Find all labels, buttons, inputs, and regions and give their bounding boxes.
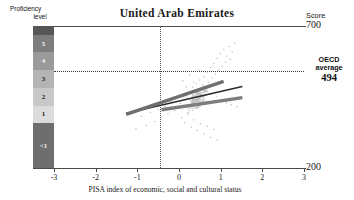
proficiency-band-label: 5 xyxy=(42,40,46,48)
proficiency-caption-line1: Proficiency xyxy=(10,5,66,13)
x-tick-label--1: -1 xyxy=(126,173,148,182)
chart-root: United Arab Emirates Proficiency level 5… xyxy=(0,0,354,200)
proficiency-band-label: 2 xyxy=(42,93,46,101)
x-tick--1 xyxy=(137,168,138,172)
x-tick-label-0: 0 xyxy=(168,173,190,182)
proficiency-band-lt1: <1 xyxy=(33,123,54,168)
proficiency-band-3: 3 xyxy=(33,70,54,88)
x-tick--3 xyxy=(54,168,55,172)
x-tick-label-2: 2 xyxy=(251,173,273,182)
x-tick-label-3: 3 xyxy=(293,173,315,182)
axis-bottom-line xyxy=(33,168,304,169)
x-tick--2 xyxy=(96,168,97,172)
x-tick-3 xyxy=(304,168,305,172)
x-tick-label-1: 1 xyxy=(210,173,232,182)
scatter-and-trendlines-svg xyxy=(54,26,304,168)
proficiency-band-label: 3 xyxy=(42,75,46,83)
x-tick-label--3: -3 xyxy=(43,173,65,182)
x-tick-0 xyxy=(179,168,180,172)
x-tick-2 xyxy=(262,168,263,172)
y-axis-min-label: 200 xyxy=(306,161,321,172)
oecd-label-line2: average xyxy=(304,64,354,72)
proficiency-band-4: 4 xyxy=(33,52,54,70)
x-axis-caption: PISA index of economic, social and cultu… xyxy=(30,185,300,194)
proficiency-caption-line2: level xyxy=(10,13,66,21)
y-axis-max-label: 700 xyxy=(306,19,321,30)
proficiency-band-1: 1 xyxy=(33,106,54,124)
proficiency-level-caption: Proficiency level xyxy=(10,5,66,20)
plot-data-layer xyxy=(54,26,304,168)
proficiency-band-5: 5 xyxy=(33,35,54,53)
x-tick-1 xyxy=(221,168,222,172)
proficiency-band-2: 2 xyxy=(33,88,54,106)
proficiency-band-label: <1 xyxy=(40,142,48,150)
proficiency-band-column: 54321<1 xyxy=(33,26,54,168)
proficiency-band-label: 4 xyxy=(42,57,46,65)
x-tick-label--2: -2 xyxy=(85,173,107,182)
oecd-average-label: OECD average 494 xyxy=(304,56,354,83)
proficiency-band-label: 1 xyxy=(42,110,46,118)
oecd-average-value: 494 xyxy=(304,72,354,83)
proficiency-band-6 xyxy=(33,26,54,35)
